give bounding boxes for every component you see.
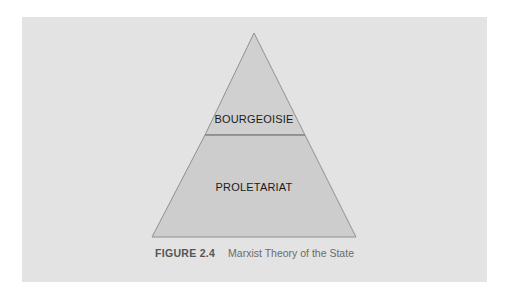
label-proletariat: PROLETARIAT bbox=[216, 181, 293, 193]
figure-caption: FIGURE 2.4 Marxist Theory of the State bbox=[155, 247, 354, 259]
figure-title: Marxist Theory of the State bbox=[228, 247, 354, 259]
figure-number: FIGURE 2.4 bbox=[155, 247, 215, 259]
label-bourgeoisie: BOURGEOISIE bbox=[214, 113, 293, 125]
